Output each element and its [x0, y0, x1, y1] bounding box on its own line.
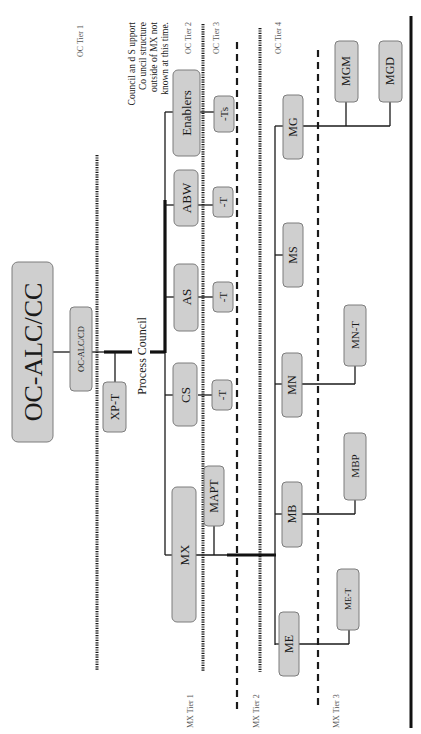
- node-me-label: ME: [282, 635, 296, 653]
- node-mapt-label: MAPT: [207, 479, 221, 513]
- node-enablers-team-label: -Ts: [218, 107, 230, 121]
- node-as[interactable]: AS: [174, 264, 198, 331]
- node-as-team[interactable]: -T: [213, 282, 233, 312]
- node-ms-label: MS: [286, 246, 300, 263]
- oc-tier-1-label: OC Tier 1: [76, 25, 85, 57]
- oc-tier-4-label: OC Tier 4: [274, 22, 283, 54]
- oc-tier-2-label: OC Tier 2: [184, 22, 193, 54]
- council-note: Council an d S upport Co uncil structure…: [127, 22, 170, 106]
- node-oc-alc-cc-label: OC-ALC/CC: [19, 283, 48, 422]
- node-mn-label: MN: [285, 375, 299, 395]
- oc-tier-3-label: OC Tier 3: [212, 22, 221, 54]
- node-abw[interactable]: ABW: [174, 170, 198, 226]
- mx-tier-2-label: MX Tier 2: [252, 694, 261, 728]
- node-as-label: AS: [179, 289, 194, 306]
- node-mb[interactable]: MB: [282, 482, 302, 547]
- node-mn-t-label: MN-T: [349, 321, 361, 349]
- mx-tier-1-label: MX Tier 1: [186, 694, 195, 728]
- node-enablers-team[interactable]: -Ts: [214, 96, 234, 132]
- note-line-3: outside of MX not: [149, 22, 159, 92]
- node-abw-team-label: -T: [217, 197, 229, 208]
- node-mb-label: MB: [285, 505, 299, 524]
- node-abw-label: ABW: [179, 182, 194, 213]
- node-mg-label: MG: [286, 117, 300, 137]
- node-mn[interactable]: MN: [282, 353, 302, 417]
- mx-tier-3-label: MX Tier 3: [332, 694, 341, 728]
- node-as-team-label: -T: [217, 292, 229, 303]
- node-xp-t-label: XP-T: [108, 393, 122, 420]
- node-oc-alc-cc[interactable]: OC-ALC/CC: [12, 262, 53, 442]
- node-ms[interactable]: MS: [283, 223, 303, 287]
- node-mg[interactable]: MG: [283, 95, 303, 159]
- node-mbp-label: MBP: [349, 454, 361, 477]
- node-enablers[interactable]: Enablers: [173, 70, 200, 156]
- node-mgd-label: MGD: [383, 57, 397, 85]
- process-council-label: Process Council: [135, 317, 149, 395]
- node-xp-t[interactable]: XP-T: [103, 382, 126, 432]
- node-me[interactable]: ME: [279, 612, 299, 676]
- node-me-t-label: ME-T: [343, 588, 353, 610]
- note-line-2: Co uncil structure: [138, 22, 148, 90]
- node-oc-alc-cd[interactable]: OC-ALC/CD: [70, 307, 92, 391]
- node-me-t[interactable]: ME-T: [337, 569, 359, 630]
- node-mgd[interactable]: MGD: [379, 41, 402, 102]
- node-enablers-label: Enablers: [179, 90, 194, 135]
- node-mn-t[interactable]: MN-T: [344, 305, 366, 366]
- node-mx[interactable]: MX: [172, 487, 196, 622]
- node-cs[interactable]: CS: [173, 363, 197, 426]
- node-mgm-label: MGM: [339, 56, 353, 86]
- org-chart: OC-ALC/CC OC-ALC/CD XP-T Process Council…: [0, 0, 421, 734]
- node-mx-label: MX: [177, 544, 192, 566]
- node-mapt[interactable]: MAPT: [204, 466, 224, 526]
- node-mgm[interactable]: MGM: [335, 41, 358, 102]
- node-mbp[interactable]: MBP: [344, 433, 366, 500]
- node-cs-team-label: -T: [216, 390, 228, 401]
- node-cs-team[interactable]: -T: [212, 380, 232, 410]
- node-cs-label: CS: [178, 387, 193, 403]
- note-line-4: known at this time.: [160, 22, 170, 95]
- note-line-1: Council an d S upport: [127, 22, 137, 106]
- node-abw-team[interactable]: -T: [213, 187, 233, 217]
- node-oc-alc-cd-label: OC-ALC/CD: [76, 326, 86, 372]
